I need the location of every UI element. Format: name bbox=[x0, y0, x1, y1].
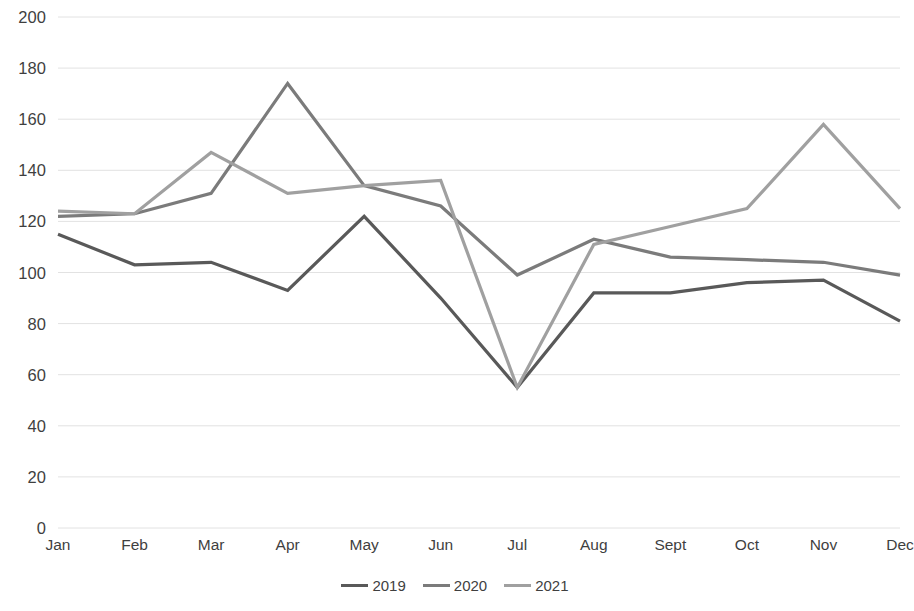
x-tick-label-jul: Jul bbox=[507, 536, 527, 554]
x-tick-label-apr: Apr bbox=[276, 536, 300, 554]
y-tick-label: 20 bbox=[4, 467, 46, 486]
y-tick-label: 60 bbox=[4, 365, 46, 384]
legend-label: 2019 bbox=[372, 578, 405, 593]
y-tick-label: 140 bbox=[4, 161, 46, 180]
legend-label: 2020 bbox=[454, 578, 487, 593]
x-tick-label-jun: Jun bbox=[428, 536, 453, 554]
y-tick-label: 120 bbox=[4, 212, 46, 231]
y-tick-label: 80 bbox=[4, 314, 46, 333]
legend-swatch-2019 bbox=[341, 584, 368, 587]
gridlines bbox=[58, 17, 900, 528]
x-tick-label-feb: Feb bbox=[121, 536, 148, 554]
series-line-2021 bbox=[58, 124, 900, 387]
chart-legend: 201920202021 bbox=[0, 578, 910, 593]
x-tick-label-may: May bbox=[350, 536, 379, 554]
y-tick-label: 160 bbox=[4, 110, 46, 129]
legend-swatch-2020 bbox=[423, 584, 450, 587]
x-tick-label-sept: Sept bbox=[654, 536, 686, 554]
x-tick-label-mar: Mar bbox=[198, 536, 225, 554]
legend-swatch-2021 bbox=[504, 584, 531, 587]
y-tick-label: 40 bbox=[4, 416, 46, 435]
x-tick-label-aug: Aug bbox=[580, 536, 608, 554]
x-tick-label-nov: Nov bbox=[810, 536, 838, 554]
y-tick-label: 200 bbox=[4, 8, 46, 27]
x-tick-label-oct: Oct bbox=[735, 536, 759, 554]
legend-item-2019[interactable]: 2019 bbox=[341, 578, 405, 593]
x-tick-label-dec: Dec bbox=[886, 536, 914, 554]
series-lines bbox=[58, 83, 900, 387]
y-tick-label: 0 bbox=[4, 519, 46, 538]
x-tick-label-jan: Jan bbox=[46, 536, 71, 554]
legend-label: 2021 bbox=[535, 578, 568, 593]
legend-item-2021[interactable]: 2021 bbox=[504, 578, 568, 593]
legend-item-2020[interactable]: 2020 bbox=[423, 578, 487, 593]
y-tick-label: 180 bbox=[4, 59, 46, 78]
y-tick-label: 100 bbox=[4, 263, 46, 282]
